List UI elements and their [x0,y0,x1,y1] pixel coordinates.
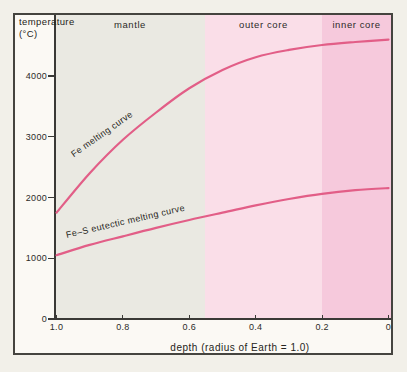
chart-scan-page: mantleouter coreinner core 0100020003000… [0,0,407,372]
y-axis-unit-label: (°C) [19,28,38,39]
x-tick-label: 0.8 [111,322,135,332]
x-tick-mark [189,315,190,319]
x-tick-label: 0.2 [310,322,334,332]
x-tick-label: 0.6 [177,322,201,332]
x-tick-mark [322,315,323,319]
x-tick-label: 1.0 [45,322,69,332]
x-tick-label: 0 [377,322,401,332]
x-tick-mark [388,315,389,319]
x-tick-mark [122,315,123,319]
y-axis-title: temperature [19,16,75,27]
x-tick-label: 0.4 [244,322,268,332]
x-tick-mark [255,315,256,319]
x-axis-ticks: 1.00.80.60.40.20 [0,0,407,372]
x-axis-title: depth (radius of Earth = 1.0) [170,342,309,353]
x-tick-mark [56,315,57,319]
